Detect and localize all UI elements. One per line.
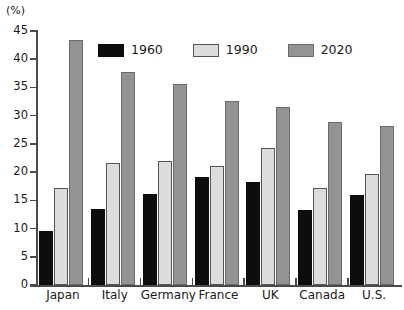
y-axis-tick-label: 5 bbox=[0, 251, 28, 263]
y-axis-tick-label: 15 bbox=[0, 194, 28, 206]
legend-swatch-2020 bbox=[288, 44, 314, 57]
legend-label-1960: 1960 bbox=[131, 44, 163, 57]
bar-canada-2020 bbox=[328, 122, 342, 285]
legend-label-2020: 2020 bbox=[321, 44, 353, 57]
y-axis-tick-label: 30 bbox=[0, 110, 28, 122]
bar-us-2020 bbox=[380, 126, 394, 285]
bar-italy-2020 bbox=[121, 72, 135, 285]
bar-us-1990 bbox=[365, 174, 379, 285]
bar-france-2020 bbox=[225, 101, 239, 285]
y-axis-tick bbox=[30, 200, 37, 202]
bar-uk-1990 bbox=[261, 148, 275, 285]
legend-swatch-1960 bbox=[98, 44, 124, 57]
x-axis-label-us: U.S. bbox=[348, 289, 400, 302]
x-axis-label-italy: Italy bbox=[89, 289, 141, 302]
legend: 196019902020 bbox=[98, 44, 352, 57]
legend-item-2020: 2020 bbox=[288, 44, 353, 57]
bar-japan-1990 bbox=[54, 188, 68, 285]
bar-germany-1990 bbox=[158, 161, 172, 285]
bar-canada-1990 bbox=[313, 188, 327, 285]
bar-italy-1960 bbox=[91, 209, 105, 285]
y-axis-tick bbox=[30, 143, 37, 145]
legend-swatch-1990 bbox=[193, 44, 219, 57]
x-axis-label-uk: UK bbox=[244, 289, 296, 302]
bar-uk-2020 bbox=[276, 107, 290, 285]
bar-chart: (%) 051015202530354045 JapanItalyGermany… bbox=[0, 0, 404, 310]
bar-germany-2020 bbox=[173, 84, 187, 286]
y-axis-tick-label: 20 bbox=[0, 166, 28, 178]
bar-us-1960 bbox=[350, 195, 364, 285]
x-axis-label-japan: Japan bbox=[37, 289, 89, 302]
cropped-title bbox=[0, 0, 404, 4]
y-axis-unit-label: (%) bbox=[6, 4, 25, 17]
bar-uk-1960 bbox=[246, 182, 260, 285]
y-axis-tick bbox=[30, 87, 37, 89]
y-axis-tick-label: 10 bbox=[0, 223, 28, 235]
y-axis-tick bbox=[30, 115, 37, 117]
bar-japan-1960 bbox=[39, 231, 53, 285]
legend-label-1990: 1990 bbox=[226, 44, 258, 57]
y-axis-tick bbox=[30, 284, 37, 286]
legend-item-1960: 1960 bbox=[98, 44, 163, 57]
bar-italy-1990 bbox=[106, 163, 120, 285]
bar-france-1990 bbox=[210, 166, 224, 285]
y-axis-tick-label: 25 bbox=[0, 138, 28, 150]
y-axis-tick bbox=[30, 30, 37, 32]
y-axis-tick bbox=[30, 228, 37, 230]
y-axis-tick-label: 45 bbox=[0, 25, 28, 37]
y-axis-tick-label: 0 bbox=[0, 279, 28, 291]
bar-germany-1960 bbox=[143, 194, 157, 285]
bar-france-1960 bbox=[195, 177, 209, 285]
bar-canada-1960 bbox=[298, 210, 312, 285]
x-axis-label-canada: Canada bbox=[296, 289, 348, 302]
y-axis-tick-label: 35 bbox=[0, 81, 28, 93]
x-axis-label-germany: Germany bbox=[141, 289, 193, 302]
y-axis-tick bbox=[30, 256, 37, 258]
x-axis-label-france: France bbox=[193, 289, 245, 302]
bar-japan-2020 bbox=[69, 40, 83, 285]
y-axis-tick bbox=[30, 171, 37, 173]
legend-item-1990: 1990 bbox=[193, 44, 258, 57]
y-axis-tick bbox=[30, 58, 37, 60]
y-axis-tick-label: 40 bbox=[0, 53, 28, 65]
bars-layer bbox=[37, 31, 400, 285]
